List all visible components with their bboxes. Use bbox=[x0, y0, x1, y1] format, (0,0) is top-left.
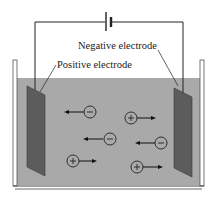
electrolysis-diagram: Negative electrode Positive electrode bbox=[0, 0, 215, 198]
positive-electrode-label: Positive electrode bbox=[57, 59, 132, 70]
negative-electrode-label: Negative electrode bbox=[78, 40, 157, 51]
battery-icon bbox=[106, 12, 111, 31]
positive-electrode bbox=[27, 86, 45, 176]
negative-electrode bbox=[174, 88, 192, 177]
